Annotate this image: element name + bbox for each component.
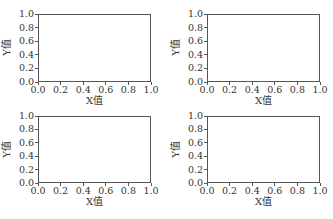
- y-tick-label: 0.8: [10, 23, 34, 33]
- x-tick-mark: [128, 183, 129, 186]
- y-tick-mark: [204, 54, 207, 55]
- y-tick-label: 1.0: [179, 9, 203, 19]
- x-tick-label: 0.4: [73, 85, 93, 95]
- y-axis-label: Y值: [170, 33, 181, 63]
- plot-area: [38, 116, 151, 183]
- y-tick-label: 1.0: [179, 111, 203, 121]
- x-tick-label: 0.2: [220, 186, 240, 196]
- x-tick-label: 1.0: [310, 186, 330, 196]
- x-tick-label: 1.0: [141, 186, 161, 196]
- x-tick-mark: [83, 183, 84, 186]
- x-tick-label: 0.2: [220, 85, 240, 95]
- x-tick-label: 0.0: [28, 85, 48, 95]
- x-tick-mark: [320, 183, 321, 186]
- x-tick-label: 1.0: [310, 85, 330, 95]
- x-tick-mark: [207, 183, 208, 186]
- y-tick-mark: [35, 129, 38, 130]
- x-tick-label: 1.0: [141, 85, 161, 95]
- y-tick-mark: [204, 14, 207, 15]
- y-tick-mark: [204, 129, 207, 130]
- y-tick-mark: [204, 116, 207, 117]
- y-tick-mark: [35, 156, 38, 157]
- y-axis-label: Y值: [170, 134, 181, 164]
- x-tick-mark: [105, 183, 106, 186]
- y-tick-label: 0.6: [10, 36, 34, 46]
- x-tick-label: 0.6: [265, 85, 285, 95]
- y-axis-label: Y值: [1, 134, 12, 164]
- x-tick-mark: [60, 183, 61, 186]
- y-tick-mark: [204, 27, 207, 28]
- x-tick-mark: [128, 82, 129, 85]
- y-tick-mark: [35, 41, 38, 42]
- y-tick-label: 0.4: [179, 50, 203, 60]
- x-tick-mark: [151, 82, 152, 85]
- x-tick-label: 0.6: [265, 186, 285, 196]
- x-tick-label: 0.2: [51, 85, 71, 95]
- y-tick-label: 0.8: [179, 23, 203, 33]
- x-tick-label: 0.0: [28, 186, 48, 196]
- x-tick-mark: [252, 82, 253, 85]
- x-tick-label: 0.0: [197, 186, 217, 196]
- y-tick-label: 0.2: [10, 63, 34, 73]
- y-tick-mark: [35, 54, 38, 55]
- x-axis-label: X值: [75, 95, 115, 106]
- y-tick-label: 0.2: [10, 165, 34, 175]
- y-tick-mark: [204, 68, 207, 69]
- x-tick-mark: [274, 183, 275, 186]
- x-tick-mark: [60, 82, 61, 85]
- x-tick-mark: [207, 82, 208, 85]
- plot-area: [207, 14, 320, 82]
- x-tick-mark: [274, 82, 275, 85]
- y-tick-label: 0.4: [10, 50, 34, 60]
- y-tick-mark: [35, 68, 38, 69]
- plot-area: [38, 14, 151, 82]
- x-tick-mark: [38, 183, 39, 186]
- x-tick-label: 0.2: [51, 186, 71, 196]
- x-tick-label: 0.8: [118, 186, 138, 196]
- y-tick-label: 1.0: [10, 9, 34, 19]
- y-tick-mark: [204, 142, 207, 143]
- y-tick-mark: [204, 41, 207, 42]
- y-tick-mark: [35, 169, 38, 170]
- x-tick-mark: [105, 82, 106, 85]
- y-tick-mark: [35, 142, 38, 143]
- y-tick-label: 0.6: [10, 138, 34, 148]
- y-tick-label: 0.4: [10, 151, 34, 161]
- y-tick-label: 1.0: [10, 111, 34, 121]
- x-tick-label: 0.4: [73, 186, 93, 196]
- x-tick-mark: [83, 82, 84, 85]
- y-tick-label: 0.4: [179, 151, 203, 161]
- x-tick-label: 0.4: [242, 186, 262, 196]
- x-tick-mark: [320, 82, 321, 85]
- y-tick-label: 0.6: [179, 36, 203, 46]
- x-tick-label: 0.4: [242, 85, 262, 95]
- x-tick-mark: [229, 82, 230, 85]
- x-tick-label: 0.0: [197, 85, 217, 95]
- x-tick-label: 0.6: [96, 85, 116, 95]
- y-tick-label: 0.2: [179, 165, 203, 175]
- x-tick-mark: [38, 82, 39, 85]
- y-tick-mark: [204, 156, 207, 157]
- x-axis-label: X值: [244, 95, 284, 106]
- y-tick-mark: [35, 116, 38, 117]
- x-tick-mark: [297, 183, 298, 186]
- y-tick-label: 0.8: [179, 124, 203, 134]
- x-tick-label: 0.8: [118, 85, 138, 95]
- y-tick-label: 0.2: [179, 63, 203, 73]
- x-tick-label: 0.6: [96, 186, 116, 196]
- x-tick-mark: [151, 183, 152, 186]
- x-tick-label: 0.8: [287, 85, 307, 95]
- x-axis-label: X值: [244, 196, 284, 207]
- x-tick-mark: [297, 82, 298, 85]
- plot-area: [207, 116, 320, 183]
- y-tick-mark: [204, 169, 207, 170]
- x-tick-label: 0.8: [287, 186, 307, 196]
- y-tick-label: 0.8: [10, 124, 34, 134]
- y-tick-label: 0.6: [179, 138, 203, 148]
- x-tick-mark: [252, 183, 253, 186]
- y-tick-mark: [35, 14, 38, 15]
- y-tick-mark: [35, 27, 38, 28]
- x-tick-mark: [229, 183, 230, 186]
- y-axis-label: Y值: [1, 33, 12, 63]
- x-axis-label: X值: [75, 196, 115, 207]
